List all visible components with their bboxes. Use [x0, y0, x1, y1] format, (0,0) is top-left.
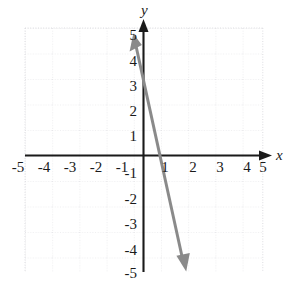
y-tick-label: 3	[115, 79, 137, 94]
x-tick-label: -3	[57, 160, 83, 175]
y-tick-label: -4	[108, 243, 137, 258]
x-tick-label: -2	[83, 160, 109, 175]
y-tick-label: -5	[108, 266, 137, 281]
y-tick-label: 2	[115, 104, 137, 119]
y-tick-label: -2	[108, 192, 137, 207]
y-tick-label: -1	[108, 166, 137, 181]
y-tick-label: -3	[108, 217, 137, 232]
y-tick-label: 1	[115, 129, 137, 144]
x-tick-label: 2	[186, 160, 200, 175]
y-tick-label: 5	[115, 28, 137, 43]
x-tick-label: 1	[158, 160, 172, 175]
x-tick-label: -5	[5, 160, 31, 175]
y-tick-label: 4	[115, 54, 137, 69]
x-tick-label: 3	[213, 160, 227, 175]
x-tick-label: 5	[256, 160, 270, 175]
x-tick-label: -4	[31, 160, 57, 175]
x-axis-label: x	[276, 148, 283, 163]
y-axis-label: y	[141, 3, 148, 18]
x-tick-label: 4	[240, 160, 254, 175]
